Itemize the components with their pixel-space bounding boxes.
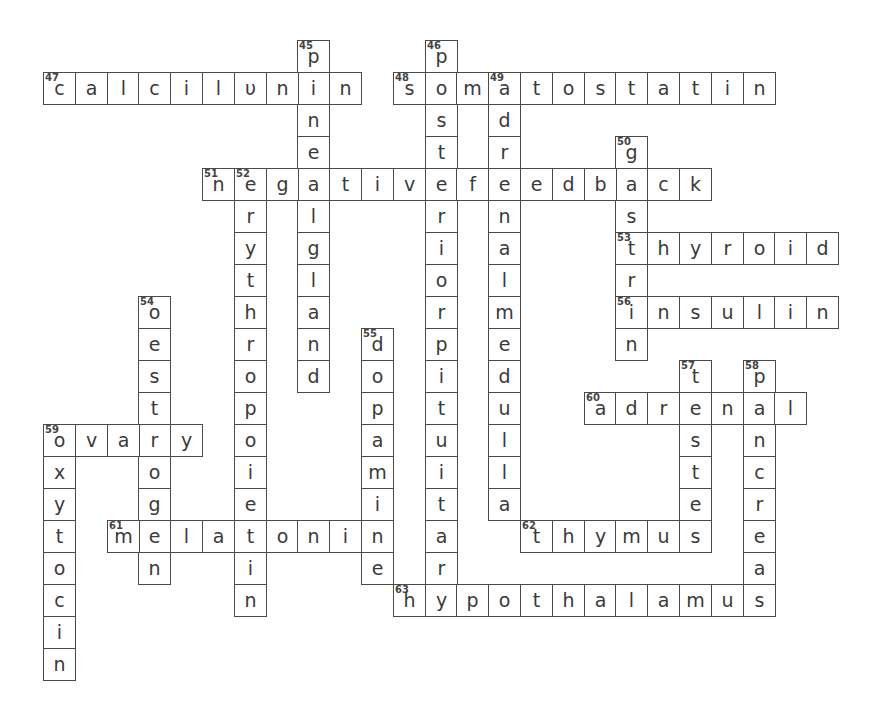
- crossword-cell[interactable]: s: [679, 424, 712, 457]
- crossword-cell[interactable]: t: [425, 136, 458, 169]
- crossword-cell[interactable]: a: [647, 72, 680, 105]
- crossword-cell[interactable]: 63h: [393, 584, 426, 617]
- crossword-cell[interactable]: 46p: [425, 40, 458, 73]
- crossword-cell[interactable]: l: [488, 424, 521, 457]
- crossword-cell[interactable]: y: [679, 232, 712, 265]
- crossword-cell[interactable]: v: [393, 168, 426, 201]
- crossword-cell[interactable]: e: [488, 168, 521, 201]
- crossword-cell[interactable]: a: [584, 584, 617, 617]
- crossword-cell[interactable]: 61m: [107, 520, 140, 553]
- crossword-cell[interactable]: r: [234, 200, 267, 233]
- crossword-cell[interactable]: 57t: [679, 360, 712, 393]
- crossword-cell[interactable]: e: [297, 136, 330, 169]
- crossword-cell[interactable]: i: [234, 552, 267, 585]
- crossword-cell[interactable]: 51n: [202, 168, 235, 201]
- crossword-cell[interactable]: s: [425, 104, 458, 137]
- crossword-cell[interactable]: p: [456, 584, 489, 617]
- crossword-cell[interactable]: o: [234, 424, 267, 457]
- crossword-cell[interactable]: a: [297, 168, 330, 201]
- crossword-cell[interactable]: x: [43, 456, 76, 489]
- crossword-cell[interactable]: o: [488, 584, 521, 617]
- crossword-cell[interactable]: o: [425, 72, 458, 105]
- crossword-cell[interactable]: 47c: [43, 72, 76, 105]
- crossword-cell[interactable]: l: [297, 200, 330, 233]
- crossword-cell[interactable]: u: [647, 520, 680, 553]
- crossword-cell[interactable]: e: [743, 520, 776, 553]
- crossword-cell[interactable]: n: [711, 392, 744, 425]
- crossword-cell[interactable]: t: [425, 488, 458, 521]
- crossword-cell[interactable]: r: [743, 488, 776, 521]
- crossword-cell[interactable]: y: [170, 424, 203, 457]
- crossword-cell[interactable]: 60a: [584, 392, 617, 425]
- crossword-cell[interactable]: g: [138, 488, 171, 521]
- crossword-cell[interactable]: o: [361, 360, 394, 393]
- crossword-cell[interactable]: a: [202, 520, 235, 553]
- crossword-cell[interactable]: h: [552, 520, 585, 553]
- crossword-cell[interactable]: p: [361, 392, 394, 425]
- crossword-cell[interactable]: o: [138, 456, 171, 489]
- crossword-cell[interactable]: l: [107, 72, 140, 105]
- crossword-cell[interactable]: a: [75, 72, 108, 105]
- crossword-cell[interactable]: t: [520, 584, 553, 617]
- crossword-cell[interactable]: d: [615, 392, 648, 425]
- crossword-cell[interactable]: d: [552, 168, 585, 201]
- crossword-cell[interactable]: e: [138, 520, 171, 553]
- crossword-cell[interactable]: d: [488, 360, 521, 393]
- crossword-cell[interactable]: m: [488, 296, 521, 329]
- crossword-cell[interactable]: c: [138, 72, 171, 105]
- crossword-cell[interactable]: 48s: [393, 72, 426, 105]
- crossword-cell[interactable]: n: [615, 328, 648, 361]
- crossword-cell[interactable]: a: [297, 296, 330, 329]
- crossword-cell[interactable]: b: [584, 168, 617, 201]
- crossword-cell[interactable]: i: [297, 72, 330, 105]
- crossword-cell[interactable]: n: [806, 296, 839, 329]
- crossword-cell[interactable]: t: [520, 72, 553, 105]
- crossword-cell[interactable]: n: [743, 424, 776, 457]
- crossword-cell[interactable]: t: [679, 456, 712, 489]
- crossword-cell[interactable]: l: [297, 264, 330, 297]
- crossword-cell[interactable]: e: [138, 328, 171, 361]
- crossword-cell[interactable]: t: [679, 72, 712, 105]
- crossword-cell[interactable]: i: [361, 168, 394, 201]
- crossword-cell[interactable]: i: [774, 232, 807, 265]
- crossword-cell[interactable]: o: [552, 72, 585, 105]
- crossword-cell[interactable]: n: [297, 104, 330, 137]
- crossword-cell[interactable]: n: [743, 72, 776, 105]
- crossword-cell[interactable]: d: [806, 232, 839, 265]
- crossword-cell[interactable]: u: [711, 584, 744, 617]
- crossword-cell[interactable]: r: [138, 424, 171, 457]
- crossword-cell[interactable]: o: [266, 520, 299, 553]
- crossword-cell[interactable]: y: [43, 488, 76, 521]
- crossword-cell[interactable]: 52e: [234, 168, 267, 201]
- crossword-cell[interactable]: s: [679, 296, 712, 329]
- crossword-cell[interactable]: 58p: [743, 360, 776, 393]
- crossword-cell[interactable]: 53t: [615, 232, 648, 265]
- crossword-cell[interactable]: u: [711, 296, 744, 329]
- crossword-cell[interactable]: r: [615, 264, 648, 297]
- crossword-cell[interactable]: e: [425, 168, 458, 201]
- crossword-cell[interactable]: a: [488, 232, 521, 265]
- crossword-cell[interactable]: 59o: [43, 424, 76, 457]
- crossword-cell[interactable]: s: [743, 584, 776, 617]
- crossword-cell[interactable]: i: [774, 296, 807, 329]
- crossword-cell[interactable]: n: [361, 520, 394, 553]
- crossword-cell[interactable]: o: [234, 360, 267, 393]
- crossword-cell[interactable]: n: [43, 648, 76, 681]
- crossword-cell[interactable]: i: [425, 232, 458, 265]
- crossword-cell[interactable]: p: [234, 392, 267, 425]
- crossword-cell[interactable]: v: [75, 424, 108, 457]
- crossword-cell[interactable]: i: [361, 488, 394, 521]
- crossword-cell[interactable]: h: [647, 232, 680, 265]
- crossword-cell[interactable]: y: [425, 584, 458, 617]
- crossword-cell[interactable]: r: [711, 232, 744, 265]
- crossword-cell[interactable]: l: [488, 456, 521, 489]
- crossword-cell[interactable]: e: [520, 168, 553, 201]
- crossword-cell[interactable]: s: [584, 72, 617, 105]
- crossword-cell[interactable]: m: [679, 584, 712, 617]
- crossword-cell[interactable]: n: [297, 520, 330, 553]
- crossword-cell[interactable]: e: [488, 328, 521, 361]
- crossword-cell[interactable]: e: [679, 392, 712, 425]
- crossword-cell[interactable]: s: [615, 200, 648, 233]
- crossword-cell[interactable]: i: [425, 360, 458, 393]
- crossword-cell[interactable]: l: [774, 392, 807, 425]
